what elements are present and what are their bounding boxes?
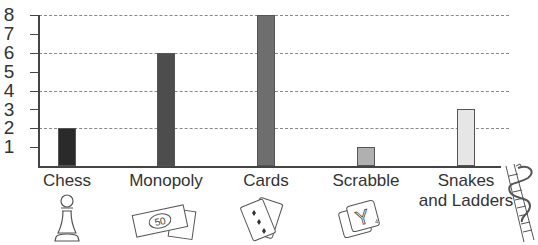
ytick-6 bbox=[30, 53, 38, 54]
x-axis bbox=[38, 166, 501, 168]
bar-chess bbox=[58, 128, 76, 166]
ytick-3 bbox=[30, 109, 38, 110]
ytick-label-8: 8 bbox=[2, 5, 16, 24]
money-banknotes-icon: 50 bbox=[130, 200, 202, 244]
bar-monopoly bbox=[157, 53, 175, 166]
ytick-label-6: 6 bbox=[2, 43, 16, 62]
ytick-label-1: 1 bbox=[2, 137, 16, 156]
y-axis bbox=[38, 15, 40, 166]
ytick-label-7: 7 bbox=[2, 24, 16, 43]
ytick-7 bbox=[30, 34, 38, 35]
ytick-8 bbox=[30, 15, 38, 16]
ytick-label-2: 2 bbox=[2, 118, 16, 137]
bar-cards bbox=[257, 15, 275, 166]
bar-snakes-and-ladders bbox=[457, 109, 475, 166]
bar-chart: 8 7 6 5 4 3 2 1 Chess Monopoly Cards Scr… bbox=[0, 0, 538, 245]
playing-cards-icon bbox=[238, 196, 288, 245]
bar-scrabble bbox=[357, 147, 375, 166]
scrabble-tile-icon: Y 4 bbox=[335, 197, 385, 243]
ytick-1 bbox=[30, 147, 38, 148]
ytick-label-4: 4 bbox=[2, 81, 16, 100]
ytick-2 bbox=[30, 128, 38, 129]
chess-pawn-icon bbox=[52, 193, 82, 245]
ytick-4 bbox=[30, 91, 38, 92]
ytick-5 bbox=[30, 72, 38, 73]
ytick-label-5: 5 bbox=[2, 62, 16, 81]
snake-and-ladder-icon bbox=[500, 162, 538, 245]
